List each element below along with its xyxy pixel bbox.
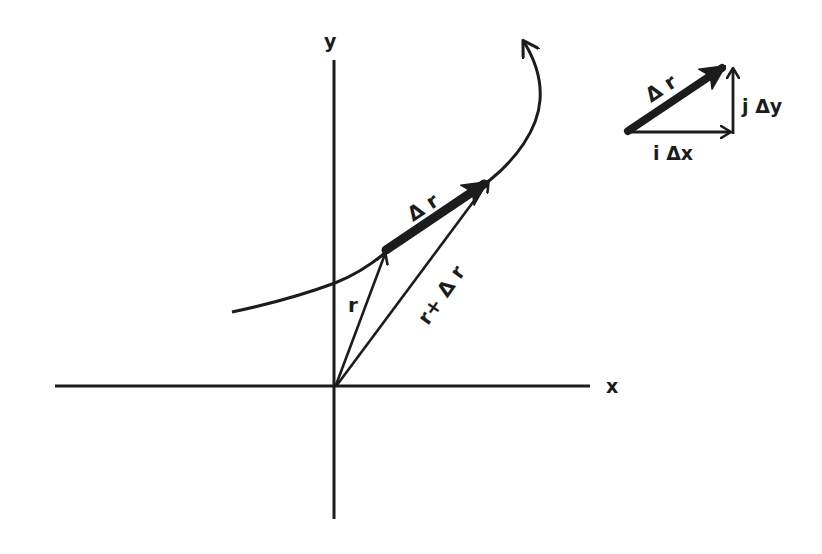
position-vector-r (336, 254, 385, 385)
displacement-vector (386, 184, 484, 250)
inset-displacement-vector (628, 68, 722, 131)
inset-x-component-label: i Δx (653, 142, 693, 164)
y-axis-label: y (324, 30, 337, 52)
inset-component-diagram: Δ r j Δy i Δx (627, 68, 783, 164)
inset-y-component-label: j Δy (741, 95, 783, 117)
trajectory-curve (232, 42, 540, 312)
vector-diagram: x y r r+ Δ r Δ r Δ r j Δy i Δx (0, 0, 822, 554)
x-axis-label: x (606, 375, 618, 397)
position-vector-label: r (348, 293, 358, 317)
